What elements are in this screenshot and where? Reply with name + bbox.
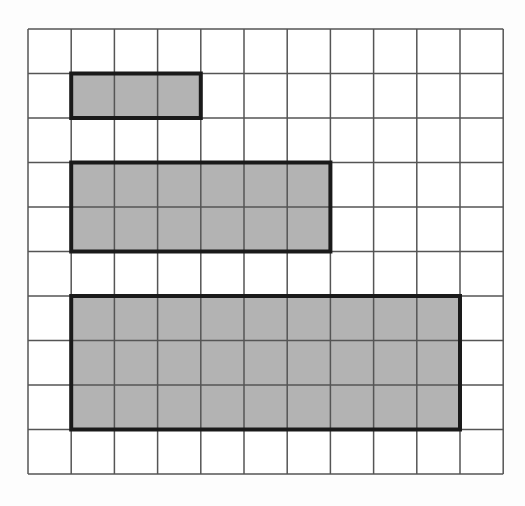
rect-3x1-fill (71, 74, 201, 119)
rect-9x3-fill (71, 296, 460, 430)
grid-diagram (0, 0, 525, 506)
